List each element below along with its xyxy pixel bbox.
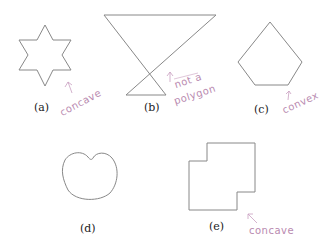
kidney-shape (62, 153, 117, 200)
pentagon-shape (238, 22, 302, 85)
caption-b: (b) (144, 101, 160, 114)
bowtie-shape (104, 15, 216, 95)
arrow-icon (248, 214, 257, 223)
polygon-figure (0, 0, 330, 241)
annotation-e: concave (249, 225, 294, 236)
stepped-shape (189, 143, 255, 210)
caption-d: (d) (80, 222, 96, 235)
arrow-icon (286, 91, 291, 100)
arrow-icon (65, 82, 72, 93)
caption-c: (c) (254, 103, 269, 116)
star-shape (19, 25, 71, 86)
arrow-icon (167, 72, 173, 82)
caption-a: (a) (34, 101, 49, 114)
caption-e: (e) (209, 220, 224, 233)
